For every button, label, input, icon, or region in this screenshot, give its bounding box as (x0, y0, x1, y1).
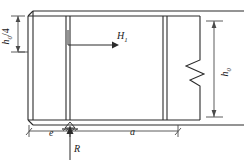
label-dim-e: e (49, 128, 53, 138)
label-h0-quarter: h0/4 (1, 28, 14, 44)
label-h0-quarter-sub: 0 (6, 36, 13, 39)
label-h0-full: h0 (220, 68, 233, 76)
label-h0-quarter-base: h (0, 39, 11, 44)
label-force-h1: H1 (117, 31, 128, 44)
girder-outline (28, 11, 244, 125)
label-dim-a: a (130, 127, 135, 137)
label-h0-full-base: h (219, 72, 230, 77)
reaction-r-arrowhead-icon (67, 126, 74, 134)
label-reaction-r: R (74, 144, 80, 154)
diagram-canvas: h0/4 h0 H1 e a R (0, 0, 247, 167)
dim-h0-arrow-top-icon (212, 21, 217, 28)
force-h1-arrow (68, 30, 112, 45)
label-h0-full-sub: 0 (225, 68, 232, 71)
left-end-closure (28, 11, 33, 125)
dim-h0q-arrow-bottom-icon (16, 46, 21, 52)
label-h0-quarter-frac: /4 (0, 28, 11, 36)
beam-elevation-drawing (0, 0, 247, 167)
stiffener-second (163, 16, 167, 120)
dim-h0q-arrow-top-icon (16, 16, 21, 22)
break-line-zigzag-icon (186, 16, 204, 120)
label-force-h1-sub: 1 (124, 36, 127, 43)
dim-h0-arrow-bottom-icon (212, 110, 217, 117)
